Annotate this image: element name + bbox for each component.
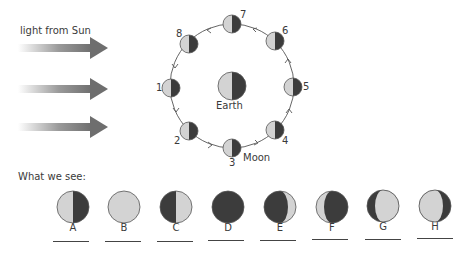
orbit-number-1: 1: [156, 82, 162, 93]
what-we-see-label: What we see:: [18, 171, 86, 182]
phase-icon-e: [264, 191, 296, 223]
orbit-moon-3: [223, 139, 241, 157]
orbit-moon-1: [162, 79, 180, 97]
answer-blank-b[interactable]: [105, 241, 141, 242]
earth-icon: [218, 72, 246, 100]
phase-icon-b: [108, 191, 140, 223]
phase-icon-g: [367, 190, 399, 222]
orbit-number-6: 6: [282, 25, 288, 36]
answer-blank-c[interactable]: [157, 241, 193, 242]
sunlight-arrow-icon: [18, 37, 108, 59]
orbit-number-2: 2: [174, 135, 180, 146]
phase-letter-h: H: [425, 221, 445, 232]
phase-letter-b: B: [114, 222, 134, 233]
answer-blank-g[interactable]: [365, 239, 401, 240]
phase-icon-a: [57, 191, 89, 223]
orbit-number-4: 4: [282, 135, 288, 146]
moon-label: Moon: [243, 152, 270, 163]
phase-letter-d: D: [218, 222, 238, 233]
phase-letter-e: E: [270, 222, 290, 233]
moon-phase-diagram: [0, 0, 469, 254]
answer-blank-e[interactable]: [260, 240, 296, 241]
phase-letter-a: A: [63, 222, 83, 233]
orbit-moon-5: [284, 78, 302, 96]
phase-letter-f: F: [322, 222, 342, 233]
orbit-moon-7: [223, 15, 241, 33]
phase-icon-f: [316, 191, 348, 223]
orbit-number-7: 7: [240, 9, 246, 20]
orbit-number-5: 5: [303, 81, 309, 92]
phase-icon-c: [160, 191, 192, 223]
answer-blank-d[interactable]: [208, 240, 244, 241]
orbit-number-3: 3: [229, 157, 235, 168]
phase-letter-c: C: [166, 222, 186, 233]
orbit-number-8: 8: [176, 28, 182, 39]
orbit-moon-8: [180, 35, 198, 53]
phase-icon-d: [212, 191, 244, 223]
earth-label: Earth: [216, 100, 243, 111]
orbit-moon-2: [180, 122, 198, 140]
sunlight-arrow-icon: [18, 78, 108, 100]
answer-blank-a[interactable]: [53, 241, 89, 242]
answer-blank-h[interactable]: [417, 238, 453, 239]
answer-blank-f[interactable]: [312, 239, 348, 240]
phase-icon-h: [419, 190, 451, 222]
sunlight-arrow-icon: [18, 116, 108, 138]
phase-letter-g: G: [373, 221, 393, 232]
